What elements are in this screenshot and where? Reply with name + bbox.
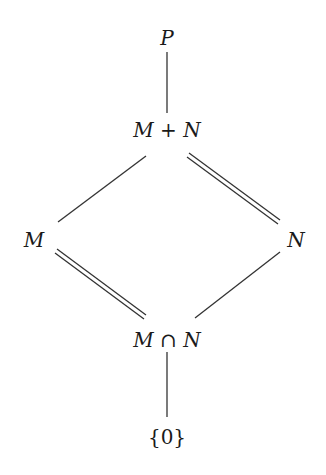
intersection-operator: ∩ [154, 328, 183, 352]
node-left-label: M [24, 228, 44, 252]
edges-layer [0, 0, 326, 475]
node-top-label: P [160, 26, 173, 50]
edge-right-intersection [195, 252, 280, 318]
node-sum: M + N [133, 120, 200, 140]
node-bottom: {0} [148, 427, 186, 447]
node-intersection-left: M [133, 328, 153, 352]
plus-operator: + [154, 118, 183, 142]
node-right-label: N [287, 228, 305, 252]
node-intersection: M ∩ N [133, 330, 200, 350]
lattice-diagram: P M + N M N M ∩ N {0} [0, 0, 326, 475]
node-right: N [287, 230, 305, 250]
node-intersection-right: N [183, 328, 201, 352]
node-sum-left: M [133, 118, 153, 142]
edge-sum-left [58, 156, 146, 222]
node-sum-right: N [183, 118, 201, 142]
node-bottom-label: {0} [148, 425, 186, 449]
node-top: P [160, 28, 173, 48]
edge-left-intersection-double [55, 249, 146, 319]
edge-sum-right-double [187, 153, 280, 224]
node-left: M [24, 230, 44, 250]
